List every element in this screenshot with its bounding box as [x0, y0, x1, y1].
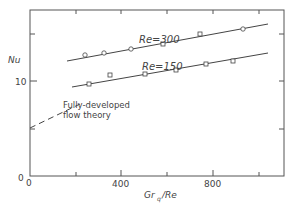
re150-label: Re=150: [142, 61, 183, 72]
theory-label-2: flow theory: [63, 110, 111, 120]
re300-label: Re=300: [139, 34, 180, 45]
y-axis-label: Nu: [8, 55, 21, 65]
theory-label-1: Fully-developed: [63, 100, 130, 110]
y-tick-0: 0: [18, 173, 24, 183]
x-axis-label-tail: /Re: [161, 190, 177, 200]
x-axis-label-main: Gr: [144, 190, 156, 200]
chart: 0 0 400 800 10 Nu Gr q /Re Re=300 Re=150…: [0, 0, 293, 208]
x-tick-800: 800: [204, 179, 221, 189]
x-tick-400: 400: [112, 179, 129, 189]
y-tick-10: 10: [15, 77, 27, 87]
x-tick-0: 0: [26, 178, 32, 188]
x-axis-label-sub: q: [157, 195, 161, 203]
